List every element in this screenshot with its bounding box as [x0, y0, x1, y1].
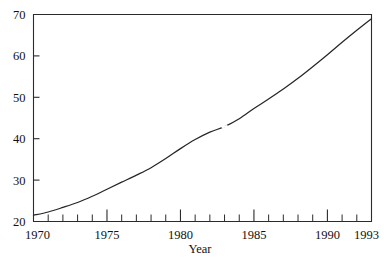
x-tick-label: 1993: [354, 228, 379, 242]
x-tick-label: 1980: [168, 228, 193, 242]
x-tick-label: 1985: [241, 228, 266, 242]
chart-figure: 203040506070 197019751980198519901993 Ye…: [0, 0, 388, 263]
y-axis-ticks: [34, 56, 40, 180]
x-axis-ticks: [48, 210, 357, 222]
x-tick-label: 1975: [94, 228, 119, 242]
y-tick-label: 70: [13, 8, 26, 22]
line-chart: 203040506070 197019751980198519901993 Ye…: [0, 0, 388, 263]
y-tick-label: 20: [13, 215, 26, 229]
x-tick-label: 1990: [315, 228, 340, 242]
x-axis-title: Year: [188, 242, 212, 256]
axis-frame: [34, 15, 372, 222]
x-axis-tick-labels: 197019751980198519901993: [25, 228, 379, 242]
series-line-gap: [222, 126, 228, 128]
y-axis-tick-labels: 203040506070: [13, 8, 26, 229]
x-tick-label: 1970: [25, 228, 50, 242]
y-tick-label: 40: [13, 132, 26, 146]
y-tick-label: 50: [13, 91, 26, 105]
series-line-path: [34, 19, 372, 216]
axes: [34, 15, 372, 222]
y-tick-label: 60: [13, 49, 26, 63]
data-series: [34, 19, 372, 216]
y-tick-label: 30: [13, 174, 26, 188]
